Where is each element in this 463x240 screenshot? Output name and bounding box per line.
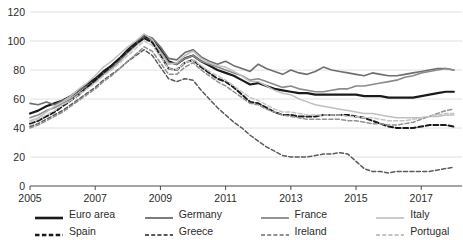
x-axis-tick-label: 2015 — [344, 192, 368, 204]
legend-swatch-ireland — [260, 226, 290, 236]
x-axis-tick-label: 2009 — [149, 192, 173, 204]
legend-swatch-greece — [144, 226, 174, 236]
x-axis-tick-label: 2005 — [18, 192, 42, 204]
legend-swatch-spain — [34, 226, 64, 236]
legend-item-germany: Germany — [116, 206, 232, 222]
x-axis-tick-label: 2007 — [84, 192, 108, 204]
legend-swatch-portugal — [375, 226, 405, 236]
chart-plot-area: 0204060801001202005200720092011201320152… — [0, 0, 463, 205]
legend-swatch-france — [260, 209, 290, 219]
y-axis-tick-label: 0 — [19, 180, 25, 192]
y-axis-tick-label: 120 — [7, 6, 25, 18]
legend-label-france: France — [295, 209, 328, 220]
y-axis-tick-label: 100 — [7, 35, 25, 47]
x-axis-tick-label: 2017 — [410, 192, 434, 204]
chart-figure: 0204060801001202005200720092011201320152… — [0, 0, 463, 240]
series-line-ireland — [30, 47, 454, 128]
legend-item-portugal: Portugal — [347, 223, 463, 239]
line-chart-svg: 0204060801001202005200720092011201320152… — [0, 0, 463, 205]
legend-item-ireland: Ireland — [232, 223, 348, 239]
y-axis-tick-label: 80 — [13, 64, 25, 76]
legend-label-ireland: Ireland — [295, 226, 327, 237]
x-axis-tick-label: 2011 — [214, 192, 237, 204]
legend-item-spain: Spain — [0, 223, 116, 239]
legend-swatch-euro-area — [34, 209, 64, 219]
legend-row-2: Spain Greece Ireland Portugal — [0, 223, 463, 239]
legend-label-greece: Greece — [179, 226, 213, 237]
legend-label-portugal: Portugal — [410, 226, 449, 237]
legend-swatch-germany — [144, 209, 174, 219]
legend-item-greece: Greece — [116, 223, 232, 239]
legend-label-italy: Italy — [410, 209, 429, 220]
x-axis-tick-label: 2013 — [279, 192, 303, 204]
chart-legend: Euro area Germany France Italy Spain — [0, 205, 463, 240]
legend-label-euro-area: Euro area — [69, 209, 115, 220]
legend-swatch-italy — [375, 209, 405, 219]
y-axis-tick-label: 60 — [13, 93, 25, 105]
y-axis-tick-label: 20 — [13, 151, 25, 163]
y-axis-tick-label: 40 — [13, 122, 25, 134]
legend-item-euro-area: Euro area — [0, 206, 116, 222]
legend-label-spain: Spain — [69, 226, 96, 237]
legend-item-france: France — [232, 206, 348, 222]
legend-label-germany: Germany — [179, 209, 222, 220]
legend-item-italy: Italy — [347, 206, 463, 222]
legend-row-1: Euro area Germany France Italy — [0, 206, 463, 222]
series-line-italy — [30, 34, 454, 121]
